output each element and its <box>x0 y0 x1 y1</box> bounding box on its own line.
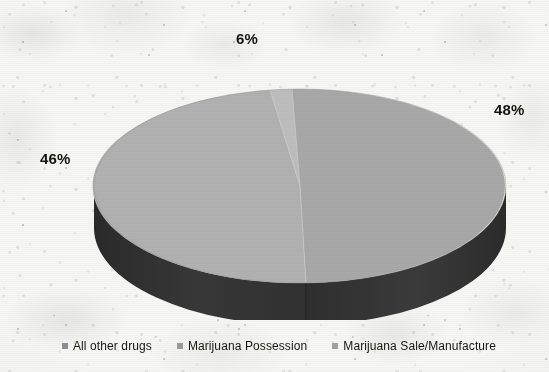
legend-swatch-icon <box>177 343 183 349</box>
chart-legend: All other drugs Marijuana Possession Mar… <box>0 334 549 358</box>
pie-chart: 6% 48% 46% <box>0 0 549 320</box>
legend-swatch-icon <box>332 343 338 349</box>
legend-label: Marijuana Possession <box>188 339 307 353</box>
legend-item-marijuana-sale-manufacture[interactable]: Marijuana Sale/Manufacture <box>332 339 496 353</box>
pie-chart-svg <box>0 0 549 320</box>
pie-chart-page: 6% 48% 46% All other drugs Marijuana Pos… <box>0 0 549 372</box>
legend-label: Marijuana Sale/Manufacture <box>343 339 496 353</box>
pie-top-face <box>93 89 506 283</box>
legend-item-all-other-drugs[interactable]: All other drugs <box>62 339 152 353</box>
slice-label-marijuana-sale-manufacture: 48% <box>494 101 525 118</box>
legend-swatch-icon <box>62 343 68 349</box>
legend-item-marijuana-possession[interactable]: Marijuana Possession <box>177 339 307 353</box>
slice-label-marijuana-possession: 6% <box>236 30 258 47</box>
slice-label-all-other-drugs: 46% <box>40 150 71 167</box>
legend-label: All other drugs <box>73 339 152 353</box>
